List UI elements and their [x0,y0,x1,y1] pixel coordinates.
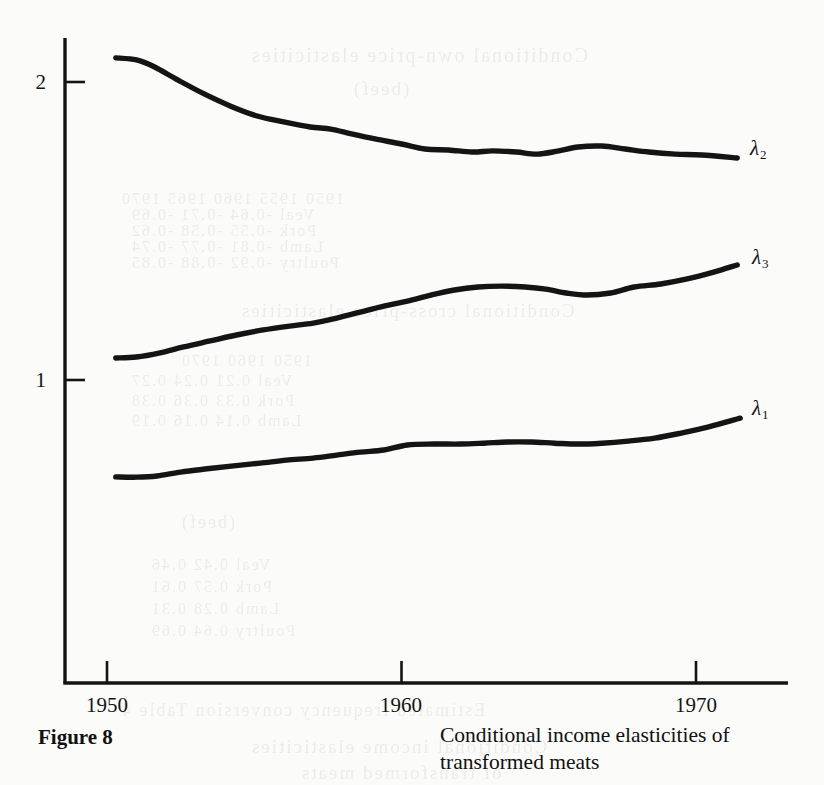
curve-lambda_2 [116,58,737,158]
chart-axes [63,38,788,683]
figure-caption-text: Conditional income elasticities of trans… [440,722,770,776]
y-tick-label-1: 1 [14,368,46,393]
curve-lambda_3 [116,265,737,358]
y-tick-label-2: 2 [14,70,46,95]
lambda-subscript: 3 [762,256,769,271]
figure-page: Conditional own-price elasticities(beef)… [0,0,824,785]
curve-lambda_1 [116,418,740,477]
series-label-lambda-3: λ3 [752,245,768,270]
lambda-subscript: 2 [760,147,767,162]
chart-curves [116,58,740,477]
chart-plot-area [0,0,824,785]
lambda-glyph: λ [750,136,759,160]
x-tick-label-1970: 1970 [654,693,738,718]
series-label-lambda-1: λ1 [752,396,768,421]
lambda-glyph: λ [752,245,761,269]
figure-caption-row: Figure 8 Conditional income elasticities… [0,718,824,785]
series-label-lambda-2: λ2 [750,136,766,161]
x-tick-label-1960: 1960 [359,693,443,718]
lambda-subscript: 1 [762,407,769,422]
figure-number-label: Figure 8 [38,725,113,750]
x-tick-label-1950: 1950 [65,693,149,718]
lambda-glyph: λ [752,396,761,420]
